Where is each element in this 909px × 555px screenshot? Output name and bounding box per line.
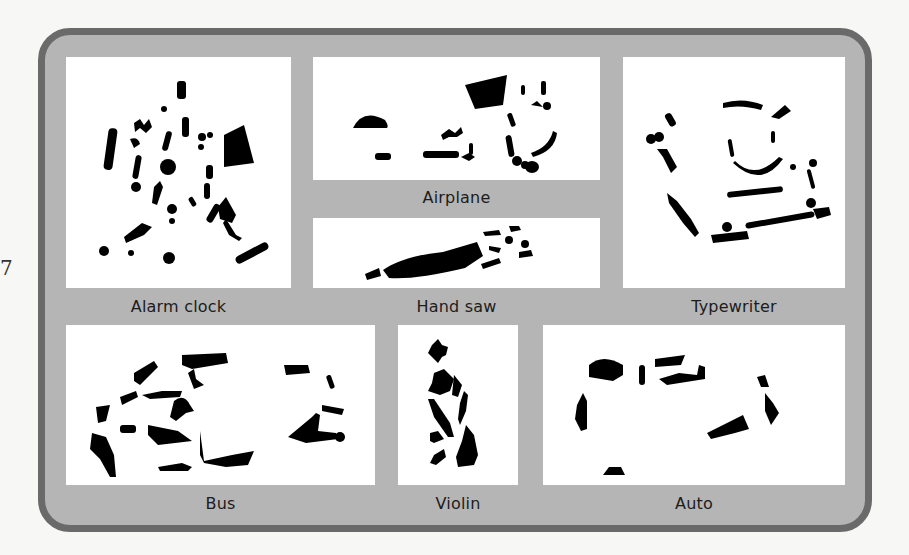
hand-saw-fragmented-image — [313, 218, 600, 288]
label-hand-saw: Hand saw — [313, 297, 600, 316]
airplane-fragmented-image — [313, 57, 600, 180]
label-bus: Bus — [66, 494, 375, 513]
panel-bus — [66, 325, 375, 485]
panel-auto — [543, 325, 845, 485]
label-violin: Violin — [398, 494, 518, 513]
violin-fragmented-image — [398, 325, 518, 485]
margin-mark: 7 — [0, 256, 13, 280]
typewriter-fragmented-image — [623, 57, 845, 288]
panel-typewriter — [623, 57, 845, 288]
label-alarm-clock: Alarm clock — [66, 297, 291, 316]
panel-airplane — [313, 57, 600, 180]
panel-alarm-clock — [66, 57, 291, 288]
label-typewriter: Typewriter — [623, 297, 845, 316]
label-auto: Auto — [543, 494, 845, 513]
bus-fragmented-image — [66, 325, 375, 485]
label-airplane: Airplane — [313, 188, 600, 207]
alarm-clock-fragmented-image — [66, 57, 291, 288]
auto-fragmented-image — [543, 325, 845, 485]
panel-hand-saw — [313, 218, 600, 288]
panel-violin — [398, 325, 518, 485]
